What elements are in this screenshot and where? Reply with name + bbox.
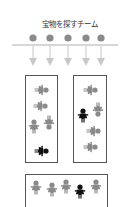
person-icon	[34, 101, 48, 111]
person-icon	[84, 142, 98, 152]
arrow-down-icon	[64, 58, 72, 66]
person-icon	[29, 119, 39, 133]
person-icon	[44, 116, 54, 130]
team-diagram	[0, 0, 127, 207]
person-icon	[61, 179, 71, 193]
arrow-down-icon	[46, 58, 54, 66]
person-icon	[35, 85, 49, 95]
arrow-down-icon	[29, 58, 37, 66]
person-icon	[47, 182, 57, 196]
person-icon	[93, 103, 103, 117]
team-member-dot	[29, 34, 36, 41]
person-icon	[87, 126, 101, 136]
team-member-dot	[46, 34, 53, 41]
team-members	[29, 34, 105, 66]
team-member-dot	[97, 34, 104, 41]
team-member-dot	[82, 34, 89, 41]
arrow-down-icon	[82, 58, 90, 66]
person-icon	[91, 179, 101, 193]
person-icon-highlighted	[75, 184, 85, 198]
team-member-dot	[64, 34, 71, 41]
arrow-down-icon	[97, 58, 105, 66]
person-icon	[84, 85, 98, 95]
figures	[29, 85, 103, 199]
person-icon	[31, 180, 41, 194]
person-icon-highlighted	[35, 146, 49, 156]
person-icon-highlighted	[78, 108, 88, 122]
